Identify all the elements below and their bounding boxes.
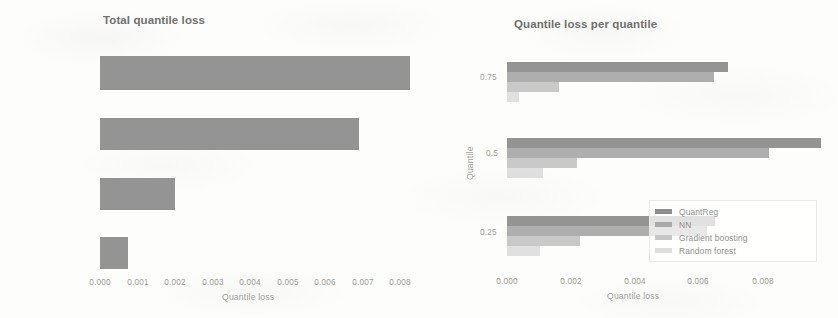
legend-item-gradient-boosting[interactable]: Gradient boosting [655, 231, 810, 244]
bar-random-forest [100, 237, 128, 269]
bar-q05-quantreg [507, 138, 821, 148]
bar-gradient-boosting [100, 178, 175, 210]
left-xtick-7: 0.007 [352, 278, 374, 287]
bar-q075-nn [507, 72, 714, 82]
legend-label-nn: NN [679, 220, 691, 230]
quantile-loss-per-quantile-panel: Quantile loss per quantile 0.75 0.5 0.25… [440, 0, 838, 318]
left-xtick-8: 0.008 [389, 278, 411, 287]
right-ytick-075: 0.75 [480, 73, 497, 82]
right-yaxis-label: Quantile [465, 146, 475, 180]
left-xtick-4: 0.004 [239, 278, 261, 287]
left-xtick-0: 0.000 [89, 278, 111, 287]
legend-item-quantreg[interactable]: QuantReg [655, 205, 810, 218]
left-xtick-2: 0.002 [164, 278, 186, 287]
left-plot-area [100, 40, 414, 262]
figure-canvas: Total quantile loss QuantReg NN Gradient… [0, 0, 838, 318]
legend: QuantReg NN Gradient boosting Random for… [649, 200, 817, 262]
bar-q05-random-forest [507, 168, 543, 178]
bar-q075-random-forest [507, 92, 519, 102]
legend-label-quantreg: QuantReg [679, 207, 718, 217]
right-ytick-05: 0.5 [486, 149, 498, 158]
right-xtick-2: 0.004 [624, 277, 646, 286]
bar-q075-gradient-boosting [507, 82, 559, 92]
bar-q025-gradient-boosting [507, 236, 580, 246]
right-xtick-3: 0.006 [687, 277, 709, 286]
right-ytick-025: 0.25 [480, 228, 497, 237]
bar-q075-quantreg [507, 62, 728, 72]
legend-label-random-forest: Random forest [679, 246, 736, 256]
legend-swatch-quantreg [655, 209, 672, 214]
right-xtick-4: 0.008 [752, 277, 774, 286]
right-chart-title: Quantile loss per quantile [514, 18, 657, 30]
left-xtick-3: 0.003 [202, 278, 224, 287]
legend-label-gradient-boosting: Gradient boosting [679, 233, 748, 243]
left-xaxis-label: Quantile loss [222, 292, 274, 302]
bar-nn [100, 118, 359, 150]
left-chart-title: Total quantile loss [103, 14, 205, 26]
bar-q05-nn [507, 148, 769, 158]
bar-q05-gradient-boosting [507, 158, 577, 168]
left-xtick-1: 0.001 [127, 278, 149, 287]
legend-swatch-gradient-boosting [655, 235, 672, 240]
right-xtick-1: 0.002 [560, 277, 582, 286]
legend-item-nn[interactable]: NN [655, 218, 810, 231]
right-xaxis-label: Quantile loss [607, 291, 659, 301]
legend-swatch-random-forest [655, 248, 672, 253]
right-xtick-0: 0.000 [496, 277, 518, 286]
left-xtick-6: 0.006 [314, 278, 336, 287]
bar-q025-random-forest [507, 246, 540, 256]
legend-swatch-nn [655, 222, 672, 227]
legend-item-random-forest[interactable]: Random forest [655, 244, 810, 257]
left-xtick-5: 0.005 [277, 278, 299, 287]
total-quantile-loss-panel: Total quantile loss QuantReg NN Gradient… [0, 0, 440, 318]
bar-quantreg [100, 56, 410, 90]
